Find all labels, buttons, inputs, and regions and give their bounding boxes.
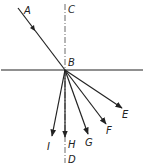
label-e: E (122, 109, 129, 120)
label-g: G (85, 137, 93, 148)
label-f: F (106, 125, 112, 136)
label-b: B (68, 57, 75, 68)
label-a: A (23, 5, 31, 16)
incident-arrow-icon (30, 25, 35, 31)
ray-bf (65, 70, 106, 124)
ray-bi (52, 70, 65, 136)
ray-diagram: A C B E F G H I D (0, 0, 143, 165)
ray-be (65, 70, 122, 108)
label-d: D (68, 154, 76, 165)
label-c: C (68, 4, 75, 15)
label-i: I (47, 141, 50, 152)
ray-bg (65, 70, 88, 134)
label-h: H (68, 139, 76, 150)
incident-ray-ab (18, 8, 65, 70)
